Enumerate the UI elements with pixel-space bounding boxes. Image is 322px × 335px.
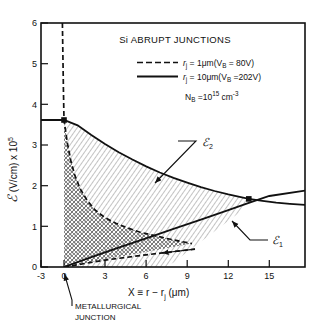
x-axis-title: X ≡ r − rj (μm) <box>128 287 189 301</box>
x-tick-15: 15 <box>264 271 274 281</box>
metallurgical-junction-line2: JUNCTION <box>75 313 116 322</box>
legend-1-rest2: =202V) <box>231 72 261 82</box>
y-axis-tick-labels: 0 1 2 3 4 5 6 <box>32 18 37 272</box>
legend: rj = 1μm(VB = 80V) rj = 10μm(VB =202V) <box>137 58 261 84</box>
y-axis-title-exp: 5 <box>7 137 14 141</box>
y-axis-ticks <box>41 23 48 267</box>
e2-leader-line <box>155 141 196 183</box>
legend-1-rest: = 10μm(V <box>187 72 227 82</box>
legend-0-rest: = 1μm(V <box>187 58 222 68</box>
legend-entry-1: rj = 10μm(VB =202V) <box>183 72 261 84</box>
junction-field-point <box>61 117 67 123</box>
x-axis-title-pre: X ≡ r − r <box>128 287 165 298</box>
x-tick-12: 12 <box>223 271 233 281</box>
y-axis-title: ℰ (V/cm) x 105 <box>5 137 20 203</box>
e2-sub: 2 <box>209 143 213 150</box>
x-axis-tick-labels: -3 0 3 6 9 12 15 <box>37 271 274 281</box>
chart-title: Si ABRUPT JUNCTIONS <box>119 34 231 45</box>
y-tick-6: 6 <box>32 18 37 28</box>
nb-annotation: NB =1015 cm-3 <box>185 90 239 103</box>
y-tick-2: 2 <box>32 181 37 191</box>
nb-mid: =10 <box>195 92 212 102</box>
y-tick-5: 5 <box>32 59 37 69</box>
x-tick-m3: -3 <box>37 271 45 281</box>
x-tick-6: 6 <box>144 271 149 281</box>
svg-text:ℰ (V/cm) x 105: ℰ (V/cm) x 105 <box>5 137 20 203</box>
x-axis-title-post: (μm) <box>166 287 190 298</box>
e1-leader-line <box>232 221 268 240</box>
x-tick-9: 9 <box>185 271 190 281</box>
nb-unit: cm <box>219 92 233 102</box>
curve-label-e2: ℰ2 <box>202 136 213 150</box>
e1-sub: 1 <box>279 241 283 248</box>
curve-label-e1: ℰ1 <box>272 234 283 248</box>
y-tick-3: 3 <box>32 140 37 150</box>
y-axis-title-rest: (V/cm) x 10 <box>8 141 19 195</box>
chart-svg: 0 1 2 3 4 5 6 -3 0 3 6 9 12 15 X ≡ r − r… <box>0 0 322 335</box>
nb-unit-exp: -3 <box>233 90 239 97</box>
metallurgical-junction-leader <box>65 274 73 306</box>
curve-crossing-point <box>246 196 252 202</box>
x-tick-3: 3 <box>102 271 107 281</box>
curve-label-e1-group: ℰ1 <box>232 221 283 248</box>
y-tick-1: 1 <box>32 222 37 232</box>
y-tick-4: 4 <box>32 100 37 110</box>
legend-0-rest2: = 80V) <box>226 58 254 68</box>
figure-container: 0 1 2 3 4 5 6 -3 0 3 6 9 12 15 X ≡ r − r… <box>0 0 322 335</box>
metallurgical-junction-group: METALLURGICAL JUNCTION <box>65 274 142 322</box>
svg-text:X ≡ r − rj (μm): X ≡ r − rj (μm) <box>128 287 189 301</box>
metallurgical-junction-line1: METALLURGICAL <box>75 302 142 311</box>
legend-entry-0: rj = 1μm(VB = 80V) <box>183 58 254 70</box>
